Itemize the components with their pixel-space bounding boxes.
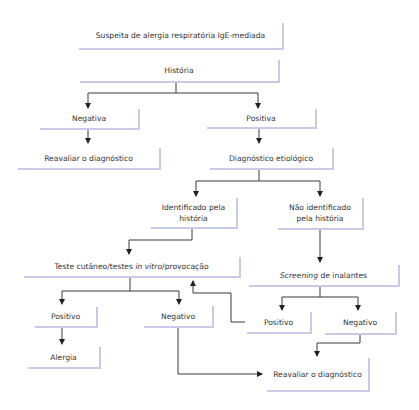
node-label: Negativo <box>161 311 195 322</box>
node-negativa: Negativa <box>40 109 140 130</box>
node-label: Alergia <box>50 352 77 363</box>
node-reavaliar-diagnostico-1: Reavaliar o diagnóstico <box>18 148 161 170</box>
node-nao-identificado-historia: Não identificado pela história <box>278 198 364 230</box>
edge-teste-split <box>62 277 179 291</box>
arrow-identificado-teste <box>129 228 192 254</box>
node-screening-inalantes: Screening de inalantes <box>249 265 400 287</box>
node-negativo-screening: Negativo <box>325 312 397 335</box>
node-label: Positivo <box>51 311 80 322</box>
node-suspeita-alergia: Suspeita de alergia respiratória IgE-med… <box>79 23 284 50</box>
node-teste-cutaneo: Teste cutâneo/testes in vitro/provocação <box>24 257 241 278</box>
node-positivo-screening: Positivo <box>247 312 312 334</box>
node-label-line2: pela história <box>296 213 343 224</box>
node-label: Screening de inalantes <box>280 270 367 281</box>
node-label: Suspeita de alergia respiratória IgE-med… <box>96 30 266 41</box>
node-label: Reavaliar o diagnóstico <box>273 369 362 380</box>
node-historia: História <box>80 60 280 83</box>
node-label: História <box>164 65 193 76</box>
node-label: Reavaliar o diagnóstico <box>44 153 133 164</box>
node-label: Positiva <box>246 113 275 124</box>
node-label: Positivo <box>264 317 293 328</box>
arrow-negativo-right-reavaliar <box>317 334 360 356</box>
node-label-line2: história <box>179 213 207 224</box>
edge-historia-split <box>88 82 258 93</box>
node-identificado-historia: Identificado pela história <box>151 198 238 229</box>
node-label-line1: Identificado pela <box>162 202 225 213</box>
node-label: Diagnóstico etiológico <box>229 153 313 164</box>
node-positivo-teste: Positivo <box>35 307 98 328</box>
node-label-line1: Não identificado <box>289 202 351 213</box>
edge-diagnostico-split <box>196 169 320 181</box>
node-negativo-teste: Negativo <box>144 306 214 328</box>
node-reavaliar-diagnostico-2: Reavaliar o diagnóstico <box>267 358 370 392</box>
node-label: Negativo <box>343 317 377 328</box>
arrow-negativo-reavaliar <box>178 327 262 374</box>
node-diagnostico-etiologico: Diagnóstico etiológico <box>210 148 334 170</box>
node-alergia: Alergia <box>28 347 101 369</box>
node-positiva: Positiva <box>207 109 317 129</box>
edge-screening-split <box>282 286 358 297</box>
node-label: Negativa <box>72 113 106 124</box>
node-label: Teste cutâneo/testes in vitro/provocação <box>54 261 208 272</box>
